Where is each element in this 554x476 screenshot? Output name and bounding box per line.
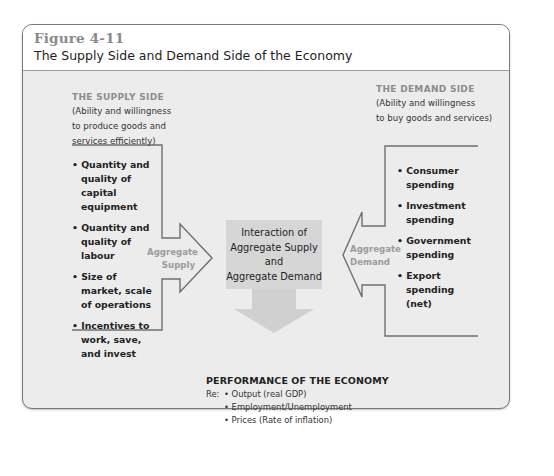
demand-subtitle-line: to buy goods and services) [376, 111, 492, 126]
supply-subtitle-line: services efficiently) [72, 134, 171, 149]
performance-prefix: Re: [206, 388, 219, 401]
arrow-label-line: Supply [147, 259, 195, 272]
demand-factor: • Consumer spending [397, 164, 477, 192]
interaction-line: and [226, 255, 322, 270]
performance-heading: PERFORMANCE OF THE ECONOMY [206, 375, 389, 386]
interaction-text: Interaction of Aggregate Supply and Aggr… [226, 226, 322, 284]
supply-factor: • Quantity and quality of capital equipm… [72, 158, 154, 214]
supply-subtitle-line: to produce goods and [72, 119, 171, 134]
aggregate-demand-label: Aggregate Demand [350, 243, 400, 269]
supply-side-heading: THE SUPPLY SIDE [72, 92, 164, 102]
supply-factor: • Incentives to work, save, and invest [72, 319, 154, 361]
demand-factors-list: • Consumer spending • Investment spendin… [397, 164, 477, 318]
performance-item: • Prices (Rate of inflation) [224, 414, 352, 427]
down-arrow [234, 289, 314, 333]
aggregate-supply-label: Aggregate Supply [147, 246, 195, 272]
performance-item: • Employment/Unemployment [224, 401, 352, 414]
arrow-label-line: Aggregate [147, 246, 195, 259]
interaction-line: Aggregate Demand [226, 270, 322, 285]
demand-side-heading: THE DEMAND SIDE [376, 84, 475, 94]
supply-factor: • Quantity and quality of labour [72, 221, 154, 263]
supply-side-subtitle: (Ability and willingness to produce good… [72, 104, 171, 149]
arrow-label-line: Aggregate [350, 243, 400, 256]
interaction-line: Interaction of [226, 226, 322, 241]
demand-factor: • Export spending (net) [397, 269, 477, 311]
demand-side-subtitle: (Ability and willingness to buy goods an… [376, 96, 492, 126]
supply-factor: • Size of market, scale of operations [72, 270, 154, 312]
demand-subtitle-line: (Ability and willingness [376, 96, 492, 111]
demand-factor: • Government spending [397, 234, 477, 262]
supply-subtitle-line: (Ability and willingness [72, 104, 171, 119]
arrow-label-line: Demand [350, 256, 400, 269]
supply-factors-list: • Quantity and quality of capital equipm… [72, 158, 154, 368]
performance-item: • Output (real GDP) [224, 388, 352, 401]
interaction-line: Aggregate Supply [226, 241, 322, 256]
performance-list: • Output (real GDP) • Employment/Unemplo… [224, 388, 352, 427]
demand-factor: • Investment spending [397, 199, 477, 227]
